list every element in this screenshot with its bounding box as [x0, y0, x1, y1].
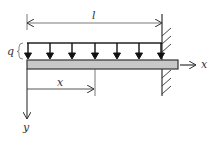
cantilever-beam-diagram: l q x x [0, 0, 215, 146]
position-label: x [57, 76, 64, 89]
x-axis-label: x [201, 58, 208, 71]
position-dimension: x [27, 69, 95, 96]
load-label: q [7, 45, 14, 58]
length-label: l [92, 9, 96, 22]
beam [27, 60, 178, 69]
x-axis: x [180, 58, 208, 71]
load-arrows [25, 43, 165, 59]
y-axis-label: y [22, 121, 30, 134]
y-axis: y [22, 69, 30, 134]
length-dimension: l [27, 9, 162, 30]
load-brace [17, 43, 23, 59]
distributed-load: q [7, 43, 165, 59]
